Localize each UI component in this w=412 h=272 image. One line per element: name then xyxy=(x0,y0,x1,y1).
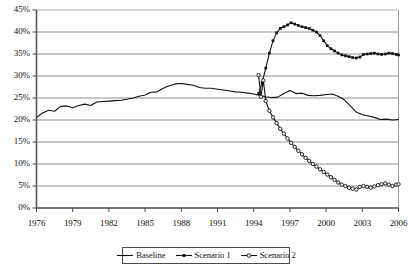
series-marker xyxy=(380,183,383,186)
x-axis-tick-label: 1985 xyxy=(125,219,165,228)
series-marker xyxy=(333,50,336,53)
series-marker xyxy=(388,52,391,55)
series-marker xyxy=(336,181,339,184)
x-axis-tick-label: 1979 xyxy=(53,219,93,228)
legend-marker-icon xyxy=(116,251,134,260)
series-marker xyxy=(351,187,354,190)
series-marker xyxy=(301,25,304,28)
series-marker xyxy=(271,116,274,119)
series-marker xyxy=(315,165,318,168)
series-marker xyxy=(391,52,394,55)
series-marker xyxy=(293,145,296,148)
series-marker xyxy=(355,188,358,191)
series-marker xyxy=(362,184,365,187)
series-marker xyxy=(319,34,322,37)
series-line-baseline xyxy=(37,83,399,120)
legend-item-scenario-1: Scenario 1 xyxy=(175,251,231,260)
series-marker xyxy=(359,56,362,59)
series-marker xyxy=(397,183,400,186)
series-marker xyxy=(262,79,265,82)
series-marker xyxy=(257,92,260,95)
y-axis-tick-label: 20% xyxy=(0,115,30,124)
series-marker xyxy=(308,27,311,30)
y-axis-tick-label: 0% xyxy=(0,203,30,212)
series-marker xyxy=(268,52,271,55)
series-marker xyxy=(355,57,358,60)
series-marker xyxy=(329,176,332,179)
legend-item-scenario-2: Scenario 2 xyxy=(240,251,296,260)
x-axis-tick-label: 2003 xyxy=(342,219,382,228)
series-marker xyxy=(283,25,286,28)
x-axis-tick-label: 1976 xyxy=(17,219,57,228)
series-marker xyxy=(279,127,282,130)
series-marker xyxy=(322,170,325,173)
series-marker xyxy=(264,99,267,102)
series-marker xyxy=(347,186,350,189)
legend-label: Baseline xyxy=(136,251,165,260)
series-marker xyxy=(348,55,351,58)
x-axis-tick-label: 1997 xyxy=(270,219,310,228)
series-marker xyxy=(366,53,369,56)
series-marker xyxy=(268,109,271,112)
series-marker xyxy=(344,184,347,187)
series-marker xyxy=(337,52,340,55)
series-marker xyxy=(358,185,361,188)
series-marker xyxy=(272,39,275,42)
series-marker xyxy=(311,162,314,165)
series-marker xyxy=(344,54,347,57)
chart-container: 0%5%10%15%20%25%30%35%40%45% 19761979198… xyxy=(0,0,412,272)
y-axis-tick-label: 30% xyxy=(0,71,30,80)
legend-item-baseline: Baseline xyxy=(116,251,165,260)
line-chart-plot xyxy=(0,0,412,272)
series-line-scenario-1 xyxy=(259,23,399,94)
y-axis-tick-label: 40% xyxy=(0,27,30,36)
series-marker xyxy=(264,67,267,70)
chart-legend: BaselineScenario 1Scenario 2 xyxy=(122,247,290,264)
series-marker xyxy=(395,53,398,56)
series-marker xyxy=(308,159,311,162)
series-marker xyxy=(351,56,354,59)
series-marker xyxy=(384,53,387,56)
series-marker xyxy=(373,52,376,55)
series-marker xyxy=(373,185,376,188)
series-marker xyxy=(282,132,285,135)
y-axis-tick-label: 45% xyxy=(0,5,30,14)
series-marker xyxy=(297,149,300,152)
y-axis-tick-label: 15% xyxy=(0,137,30,146)
series-marker xyxy=(340,54,343,57)
series-marker xyxy=(286,137,289,140)
series-marker xyxy=(362,53,365,56)
series-marker xyxy=(275,32,278,35)
x-axis-tick-label: 1988 xyxy=(161,219,201,228)
x-axis-tick-label: 1982 xyxy=(89,219,129,228)
series-marker xyxy=(380,53,383,56)
series-marker xyxy=(387,183,390,186)
series-marker xyxy=(391,184,394,187)
series-marker xyxy=(318,168,321,171)
series-marker xyxy=(315,31,318,34)
series-marker xyxy=(259,95,262,98)
legend-marker-icon xyxy=(175,251,193,260)
series-marker xyxy=(322,39,325,42)
series-marker xyxy=(340,183,343,186)
series-marker xyxy=(369,186,372,189)
series-marker xyxy=(397,54,400,57)
series-marker xyxy=(286,24,289,27)
legend-label: Scenario 2 xyxy=(260,251,296,260)
legend-marker-icon xyxy=(240,251,258,260)
series-marker xyxy=(297,24,300,27)
x-axis-tick-label: 1991 xyxy=(198,219,238,228)
series-marker xyxy=(293,23,296,26)
series-marker xyxy=(330,47,333,50)
series-marker xyxy=(376,183,379,186)
y-axis-tick-label: 25% xyxy=(0,93,30,102)
series-marker xyxy=(304,156,307,159)
series-marker xyxy=(326,173,329,176)
x-axis-tick-label: 1994 xyxy=(234,219,274,228)
y-axis-tick-label: 35% xyxy=(0,49,30,58)
y-axis-tick-label: 5% xyxy=(0,181,30,190)
series-marker xyxy=(365,185,368,188)
series-marker xyxy=(290,21,293,24)
series-marker xyxy=(257,73,260,76)
y-axis-tick-label: 10% xyxy=(0,159,30,168)
